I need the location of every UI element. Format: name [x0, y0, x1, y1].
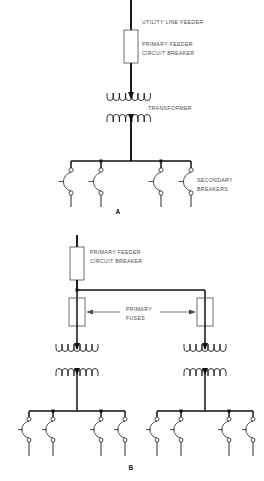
transformer-arrow-b-right-bottom — [202, 368, 208, 375]
transformer-primary-winding-a — [107, 93, 150, 101]
label-primary-fuses-line1: PRIMARY — [126, 306, 152, 312]
secondary-breaker-b-left-4 — [114, 417, 127, 456]
secondary-breaker-b-left-2 — [42, 417, 55, 456]
diagram-b: PRIMARY FEEDER CIRCUIT BREAKER PRIMARY F… — [18, 235, 255, 471]
bus-junction-dot-b-left-2 — [100, 410, 103, 413]
primary-feeder-circuit-breaker-a — [124, 30, 138, 63]
secondary-breaker-a-1 — [59, 168, 74, 207]
figure-letter-a: A — [116, 208, 121, 215]
label-primary-feeder-breaker-b-line2: CIRCUIT BREAKER — [90, 258, 142, 264]
secondary-breaker-b-right-1 — [146, 417, 159, 456]
primary-fuses-arrow-left — [86, 310, 93, 315]
label-transformer: TRANSFORMER — [148, 105, 192, 111]
secondary-breaker-b-left-1 — [18, 417, 31, 456]
bus-junction-dot-a-2 — [160, 160, 163, 163]
label-utility-line-feeder: UTILITY LINE FEEDER — [142, 19, 203, 25]
label-primary-feeder-breaker-a-line1: PRIMARY FEEDER — [142, 41, 193, 47]
secondary-breaker-a-4 — [179, 168, 194, 207]
transformer-arrow-b-left-top — [74, 343, 80, 350]
secondary-breaker-b-left-3 — [90, 417, 103, 456]
diagram-a: UTILITY LINE FEEDER PRIMARY FEEDER CIRCU… — [59, 0, 234, 215]
figure-letter-b: B — [129, 464, 134, 471]
secondary-breaker-b-right-3 — [218, 417, 231, 456]
one-line-power-distribution-diagram: UTILITY LINE FEEDER PRIMARY FEEDER CIRCU… — [0, 0, 264, 481]
secondary-breaker-a-3 — [149, 168, 164, 207]
label-secondary-breakers-line1: SECONDARY — [197, 177, 233, 183]
label-primary-fuses-line2: FUSES — [126, 315, 145, 321]
secondary-breaker-b-right-2 — [170, 417, 183, 456]
bus-junction-dot-b-right-1 — [180, 410, 183, 413]
label-primary-feeder-breaker-a-line2: CIRCUIT BREAKER — [142, 50, 194, 56]
transformer-arrow-a-bottom — [128, 114, 134, 121]
label-secondary-breakers-line2: BREAKERS — [197, 186, 228, 192]
primary-feeder-circuit-breaker-b — [70, 247, 84, 280]
primary-fuses-arrow-right — [189, 310, 196, 315]
secondary-breaker-a-2 — [89, 168, 104, 207]
transformer-arrow-b-left-bottom — [74, 368, 80, 375]
bus-junction-dot-b-right-2 — [228, 410, 231, 413]
transformer-arrow-a-top — [128, 92, 134, 99]
label-primary-feeder-breaker-b-line1: PRIMARY FEEDER — [90, 249, 141, 255]
transformer-arrow-b-right-top — [202, 343, 208, 350]
bus-junction-dot-a-1 — [100, 160, 103, 163]
secondary-breaker-b-right-4 — [242, 417, 255, 456]
bus-junction-dot-b-left-1 — [52, 410, 55, 413]
